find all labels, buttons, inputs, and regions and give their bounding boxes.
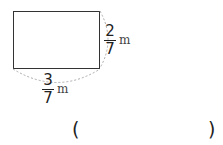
width-label: 3 7 m — [42, 73, 68, 105]
rectangle — [14, 12, 100, 69]
height-unit: m — [119, 33, 130, 47]
width-numerator: 3 — [43, 73, 53, 87]
answer-blank[interactable] — [84, 120, 204, 140]
height-label: 2 7 m — [104, 24, 130, 56]
width-fraction: 3 7 — [42, 73, 54, 105]
answer-close-paren: ) — [208, 118, 215, 140]
height-fraction: 2 7 — [104, 24, 116, 56]
width-denominator: 7 — [43, 91, 53, 105]
answer-open-paren: ( — [72, 118, 79, 140]
width-unit: m — [57, 82, 68, 96]
height-denominator: 7 — [105, 42, 115, 56]
height-numerator: 2 — [105, 24, 115, 38]
